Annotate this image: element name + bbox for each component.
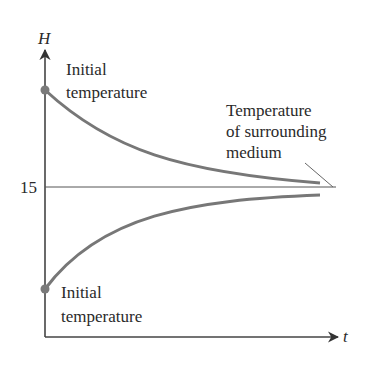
upper-initial-label-line2: temperature (66, 83, 147, 102)
warming-curve (45, 195, 320, 289)
y-tick-15: 15 (20, 178, 37, 197)
newton-cooling-diagram: H t 15 Initial temperature Initial tempe… (0, 0, 383, 366)
lower-initial-label-line2: temperature (61, 307, 142, 326)
upper-initial-label-line1: Initial (66, 60, 107, 79)
medium-label-line2: of surrounding (226, 122, 327, 141)
lower-initial-point (41, 285, 50, 294)
lower-initial-label-line1: Initial (61, 283, 102, 302)
medium-label-line3: medium (226, 143, 282, 162)
y-axis-label: H (37, 29, 52, 48)
medium-label-line1: Temperature (226, 101, 312, 120)
x-axis-label: t (343, 327, 349, 346)
diagram-canvas: H t 15 Initial temperature Initial tempe… (0, 0, 383, 366)
upper-initial-point (41, 86, 50, 95)
